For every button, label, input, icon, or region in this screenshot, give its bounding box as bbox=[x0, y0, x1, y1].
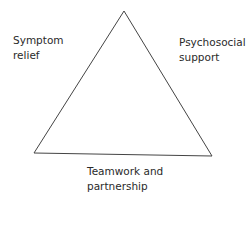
label-left-line1: Symptom bbox=[13, 33, 64, 48]
label-right-line1: Psychosocial bbox=[179, 35, 246, 50]
label-bottom-line1: Teamwork and bbox=[87, 164, 163, 179]
label-teamwork-partnership: Teamwork and partnership bbox=[87, 164, 163, 194]
label-bottom-line2: partnership bbox=[87, 179, 163, 194]
label-left-line2: relief bbox=[13, 48, 64, 63]
label-psychosocial-support: Psychosocial support bbox=[179, 35, 246, 65]
label-right-line2: support bbox=[179, 50, 246, 65]
label-symptom-relief: Symptom relief bbox=[13, 33, 64, 63]
